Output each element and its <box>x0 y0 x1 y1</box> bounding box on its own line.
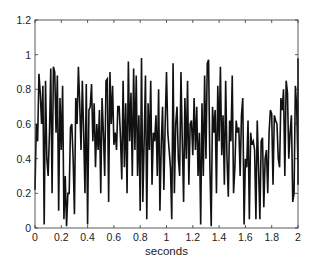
x-tick-label: 0 <box>32 231 38 243</box>
x-tick-label: 1 <box>164 231 170 243</box>
x-tick-label: 1.4 <box>212 231 227 243</box>
x-tick-label: 0.6 <box>107 231 122 243</box>
y-tick-label: 0.4 <box>16 153 31 165</box>
x-tick-label: 0.4 <box>80 231 95 243</box>
y-tick-label: 0.2 <box>16 187 31 199</box>
x-tick-label: 2 <box>295 231 301 243</box>
y-tick-label: 0 <box>25 222 31 234</box>
y-tick-label: 0.8 <box>16 83 31 95</box>
x-tick-label: 0.8 <box>133 231 148 243</box>
x-tick-label: 1.8 <box>264 231 279 243</box>
line-chart: 00.20.40.60.811.21.41.61.82 00.20.40.60.… <box>0 0 317 270</box>
x-tick-label: 0.2 <box>54 231 69 243</box>
x-axis-label: seconds <box>145 245 188 257</box>
y-tick-label: 1 <box>25 49 31 61</box>
x-tick-label: 1.2 <box>185 231 200 243</box>
x-tick-label: 1.6 <box>238 231 253 243</box>
y-tick-label: 1.2 <box>16 14 31 26</box>
y-tick-labels: 00.20.40.60.811.2 <box>16 14 31 234</box>
x-tick-labels: 00.20.40.60.811.21.41.61.82 <box>32 231 301 243</box>
y-tick-label: 0.6 <box>16 118 31 130</box>
